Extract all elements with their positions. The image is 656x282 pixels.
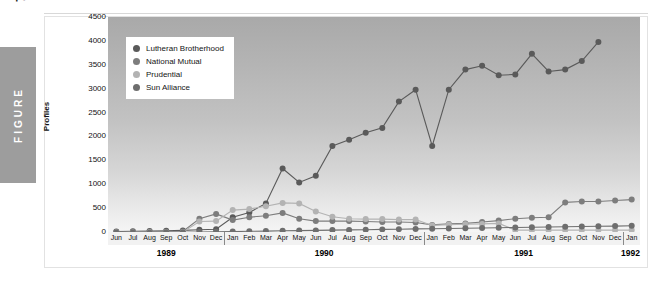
- x-tick-label: Aug: [341, 234, 358, 241]
- x-tick-label: Jun: [108, 234, 125, 241]
- data-point: [346, 216, 352, 222]
- data-point: [396, 217, 402, 223]
- x-tick-label: Jul: [125, 234, 142, 241]
- y-tick-label: 4500: [64, 13, 106, 21]
- data-point: [496, 72, 502, 78]
- data-point: [363, 130, 369, 136]
- data-point: [446, 87, 452, 93]
- data-point: [213, 218, 219, 224]
- year-label: 1991: [424, 248, 624, 258]
- line-chart: Profiles 4500400035003000250020001500100…: [44, 16, 648, 268]
- data-point: [230, 207, 236, 213]
- data-point: [429, 143, 435, 149]
- data-point: [379, 125, 385, 131]
- x-tick-label: Jan: [623, 234, 640, 241]
- chart-legend: Lutheran BrotherhoodNational MutualPrude…: [126, 37, 234, 99]
- y-axis-ticks: 450040003500300025002000150010005000: [52, 16, 106, 268]
- legend-item[interactable]: Prudential: [133, 68, 224, 81]
- data-point: [546, 224, 552, 230]
- y-tick-label: 3500: [64, 61, 106, 69]
- data-point: [512, 225, 518, 231]
- data-point: [546, 214, 552, 220]
- data-point: [496, 225, 502, 231]
- x-tick-label: Sep: [357, 234, 374, 241]
- x-tick-label: Aug: [141, 234, 158, 241]
- data-point: [629, 223, 635, 229]
- data-point: [579, 58, 585, 64]
- y-tick-label: 4000: [64, 37, 106, 45]
- data-point: [280, 200, 286, 206]
- data-point: [313, 218, 319, 224]
- y-tick-label: 1500: [64, 156, 106, 164]
- y-axis-label: Profiles: [42, 102, 51, 131]
- x-tick-label: Jul: [524, 234, 541, 241]
- data-point: [612, 198, 618, 204]
- figure-number: 7: [14, 0, 28, 2]
- data-point: [313, 173, 319, 179]
- data-point: [479, 225, 485, 231]
- y-tick-label: 0: [64, 228, 106, 236]
- x-tick-label: May: [291, 234, 308, 241]
- data-point: [512, 71, 518, 77]
- data-point: [529, 224, 535, 230]
- data-point: [296, 200, 302, 206]
- x-tick-label: Oct: [574, 234, 591, 241]
- data-point: [246, 206, 252, 212]
- data-point: [363, 216, 369, 222]
- legend-item[interactable]: National Mutual: [133, 55, 224, 68]
- legend-label: Sun Alliance: [146, 84, 190, 92]
- data-point: [296, 216, 302, 222]
- x-tick-label: Apr: [274, 234, 291, 241]
- legend-item[interactable]: Lutheran Brotherhood: [133, 42, 224, 55]
- data-point: [413, 217, 419, 223]
- y-tick-label: 2000: [64, 132, 106, 140]
- data-point: [329, 214, 335, 220]
- data-point: [230, 217, 236, 223]
- x-tick-label: Feb: [241, 234, 258, 241]
- top-divider: [44, 13, 648, 14]
- data-point: [562, 224, 568, 230]
- legend-marker-icon: [133, 71, 140, 78]
- figure-page: FIGURE 7 Profiles 4500400035003000250020…: [0, 0, 656, 282]
- data-point: [612, 223, 618, 229]
- data-point: [213, 211, 219, 217]
- data-point: [413, 87, 419, 93]
- legend-item[interactable]: Sun Alliance: [133, 81, 224, 94]
- x-tick-label: Dec: [607, 234, 624, 241]
- x-tick-label: Feb: [441, 234, 458, 241]
- year-divider: [224, 232, 225, 245]
- x-tick-label: Nov: [590, 234, 607, 241]
- year-label: 1989: [108, 248, 224, 258]
- data-point: [346, 137, 352, 143]
- data-point: [629, 197, 635, 203]
- figure-tab-label: FIGURE: [13, 87, 24, 143]
- legend-marker-icon: [133, 84, 140, 91]
- data-point: [246, 214, 252, 220]
- x-tick-label: Aug: [540, 234, 557, 241]
- legend-marker-icon: [133, 58, 140, 65]
- data-point: [562, 67, 568, 73]
- data-point: [196, 219, 202, 225]
- x-tick-label: Sep: [158, 234, 175, 241]
- y-tick-label: 500: [64, 204, 106, 212]
- x-tick-label: Oct: [175, 234, 192, 241]
- data-point: [595, 223, 601, 229]
- figure-tab: FIGURE: [0, 47, 36, 183]
- data-point: [296, 179, 302, 185]
- data-point: [429, 226, 435, 232]
- data-point: [512, 216, 518, 222]
- data-point: [546, 69, 552, 75]
- data-point: [379, 216, 385, 222]
- x-tick-label: May: [490, 234, 507, 241]
- data-point: [579, 199, 585, 205]
- legend-label: Prudential: [146, 71, 182, 79]
- data-point: [462, 67, 468, 73]
- y-tick-label: 3000: [64, 85, 106, 93]
- data-point: [462, 225, 468, 231]
- x-tick-label: Dec: [208, 234, 225, 241]
- x-tick-label: Apr: [474, 234, 491, 241]
- year-divider: [623, 232, 624, 245]
- x-tick-label: Jan: [424, 234, 441, 241]
- data-point: [280, 166, 286, 172]
- legend-marker-icon: [133, 45, 140, 52]
